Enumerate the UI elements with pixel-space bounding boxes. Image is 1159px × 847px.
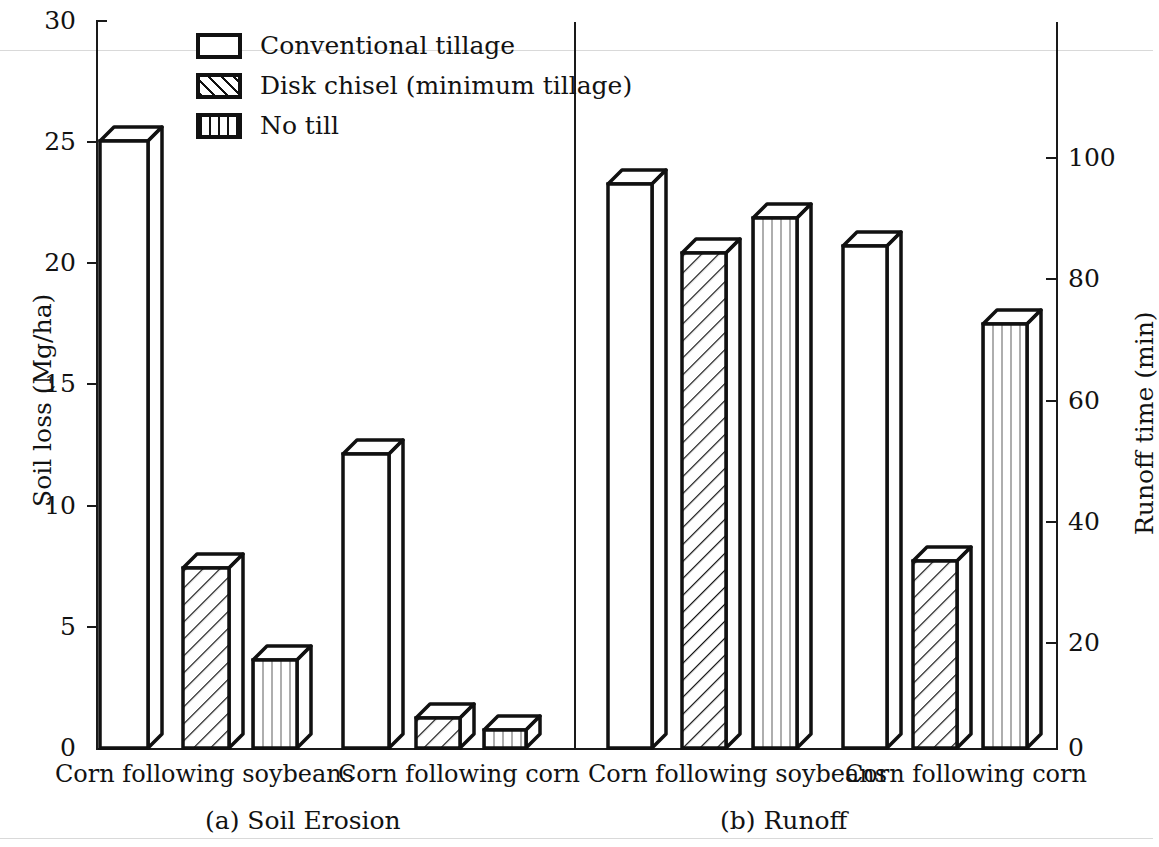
panel-a-ticklabel-25: 25: [20, 129, 76, 154]
bar-a-g2-disk-chisel[interactable]: [416, 704, 486, 752]
bar-b-g2-disk-chisel[interactable]: [913, 547, 983, 752]
panel-b-ticklabel-40: 40: [1068, 509, 1100, 534]
panel-b-ticklabel-20: 20: [1068, 630, 1100, 655]
legend-swatch-no-till: [196, 113, 242, 139]
legend-swatch-disk-chisel: [196, 73, 242, 99]
panel-a-tick-10: [87, 505, 98, 507]
bar-a-g1-disk-chisel[interactable]: [183, 554, 255, 752]
panel-a-ticklabel-0: 0: [20, 735, 76, 760]
panel-b-ticklabel-60: 60: [1068, 388, 1100, 413]
panel-a-tick-25: [87, 141, 98, 143]
panel-b-ticklabel-100: 100: [1068, 145, 1116, 170]
panel-a-ticklabel-5: 5: [20, 614, 76, 639]
panel-a-group-label-corn: Corn following corn: [338, 760, 580, 788]
panel-a-tick-30: [96, 20, 107, 22]
legend-swatch-conventional-tillage: [196, 33, 242, 59]
panel-a-caption: (a) Soil Erosion: [205, 806, 401, 835]
legend-label-conventional-tillage: Conventional tillage: [260, 31, 515, 61]
panel-b-tick-80: [1046, 278, 1057, 280]
bar-a-g2-conventional[interactable]: [343, 440, 415, 752]
panel-b-y-axis: [1056, 22, 1058, 750]
bar-a-g2-no-till[interactable]: [484, 716, 552, 752]
panel-b-group-label-soybeans: Corn following soybeans: [588, 760, 887, 788]
panel-a-group-label-soybeans: Corn following soybeans: [55, 760, 354, 788]
panel-b-tick-100: [1046, 157, 1057, 159]
panel-a-ticklabel-20: 20: [20, 250, 76, 275]
scan-artifact-line: [0, 50, 1153, 51]
panel-a-tick-20: [87, 262, 98, 264]
legend-label-no-till: No till: [260, 111, 339, 141]
bar-b-g1-no-till[interactable]: [753, 204, 823, 752]
panel-b-y-axis-title: Runoff time (min): [1130, 311, 1159, 535]
bar-a-g1-conventional[interactable]: [100, 127, 174, 752]
bar-a-g1-no-till[interactable]: [253, 646, 323, 752]
bar-b-g2-no-till[interactable]: [983, 310, 1053, 752]
panel-a-y-axis-title: Soil loss (Mg/ha): [28, 294, 57, 507]
panel-b-caption: (b) Runoff: [720, 806, 847, 835]
panel-b-ticklabel-80: 80: [1068, 266, 1100, 291]
panel-a-tick-15: [87, 383, 98, 385]
panel-b-group-label-corn: Corn following corn: [845, 760, 1087, 788]
bar-b-g2-conventional[interactable]: [843, 232, 913, 752]
panel-a-y-axis: [96, 20, 98, 750]
legend-label-disk-chisel: Disk chisel (minimum tillage): [260, 71, 632, 101]
panel-b-ticklabel-0: 0: [1068, 735, 1084, 760]
bar-b-g1-conventional[interactable]: [608, 170, 678, 752]
panel-a-ticklabel-30: 30: [20, 8, 76, 33]
bar-b-g1-disk-chisel[interactable]: [682, 239, 752, 752]
panel-divider: [574, 22, 576, 750]
scan-artifact-line-bottom: [0, 838, 1153, 839]
panel-a-tick-5: [87, 626, 98, 628]
